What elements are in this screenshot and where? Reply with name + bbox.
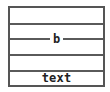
divider-label: b [50, 32, 63, 46]
row-divider-3 [10, 54, 103, 56]
divider-segment-right [63, 38, 103, 40]
row-divider-1 [10, 23, 103, 25]
footer-text-cell: text [10, 71, 103, 85]
divider-segment-left [10, 38, 50, 40]
stacked-box-diagram: b text [8, 6, 105, 87]
labeled-divider: b [10, 32, 103, 46]
